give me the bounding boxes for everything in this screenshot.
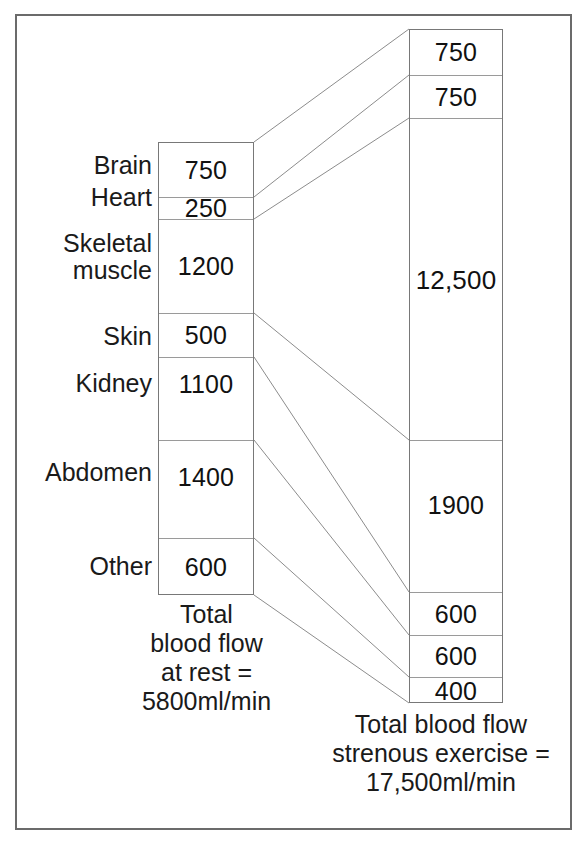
rest-value-skeletal-muscle: 1200 [178, 254, 234, 279]
exercise-segment-heart: 750 [410, 76, 502, 119]
organ-label-list: Brain Heart Skeletal muscle Skin Kidney … [0, 142, 152, 597]
exercise-value-brain: 750 [435, 40, 477, 65]
exercise-value-heart: 750 [435, 85, 477, 110]
rest-value-heart: 250 [185, 196, 227, 221]
exercise-segment-kidney: 600 [410, 593, 502, 636]
exercise-blood-flow-column: 750 750 12,500 1900 600 600 400 [409, 29, 503, 703]
exercise-segment-skeletal-muscle: 12,500 [410, 119, 502, 441]
exercise-value-abdomen: 600 [435, 644, 477, 669]
exercise-segment-skin: 1900 [410, 441, 502, 593]
organ-label-heart: Heart [2, 184, 152, 211]
exercise-value-skeletal-muscle: 12,500 [416, 267, 497, 293]
exercise-value-kidney: 600 [435, 602, 477, 627]
rest-value-other: 600 [185, 555, 227, 580]
exercise-segment-brain: 750 [410, 30, 502, 76]
rest-value-brain: 750 [185, 158, 227, 183]
rest-blood-flow-column: 750 250 1200 500 1100 1400 600 [158, 142, 254, 595]
organ-label-brain: Brain [2, 152, 152, 179]
rest-segment-heart: 250 [159, 198, 253, 220]
rest-segment-skin: 500 [159, 314, 253, 358]
rest-segment-other: 600 [159, 539, 253, 596]
rest-value-kidney: 1100 [179, 372, 234, 397]
exercise-segment-other: 400 [410, 678, 502, 704]
blood-flow-figure: Brain Heart Skeletal muscle Skin Kidney … [0, 0, 579, 845]
exercise-value-skin: 1900 [428, 493, 484, 518]
rest-segment-skeletal-muscle: 1200 [159, 220, 253, 314]
organ-label-skeletal-muscle: Skeletal muscle [2, 230, 152, 283]
caption-total-rest: Total blood flow at rest = 5800ml/min [104, 600, 309, 716]
exercise-segment-abdomen: 600 [410, 636, 502, 678]
organ-label-abdomen: Abdomen [2, 459, 152, 486]
rest-segment-abdomen: 1400 [159, 441, 253, 539]
organ-label-kidney: Kidney [2, 370, 152, 397]
caption-total-exercise: Total blood flow strenous exercise = 17,… [310, 710, 572, 797]
rest-segment-brain: 750 [159, 143, 253, 198]
rest-value-abdomen: 1400 [178, 465, 234, 490]
exercise-value-other: 400 [435, 679, 477, 704]
organ-label-other: Other [2, 553, 152, 580]
rest-value-skin: 500 [185, 323, 227, 348]
rest-segment-kidney: 1100 [159, 358, 253, 441]
organ-label-skin: Skin [2, 323, 152, 350]
